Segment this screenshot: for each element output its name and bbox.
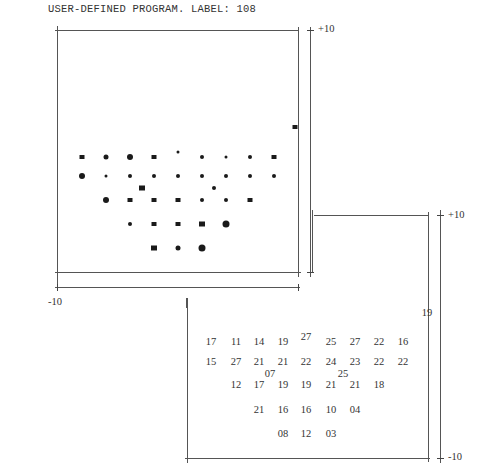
threshold-value: 22 <box>374 336 385 347</box>
top-border <box>55 30 299 31</box>
threshold-value: 11 <box>231 336 241 347</box>
greyscale-point <box>128 174 132 178</box>
bottom-border <box>185 458 430 459</box>
greyscale-point <box>177 151 180 154</box>
threshold-value: 27 <box>301 331 312 342</box>
right-axis-tick-top <box>307 30 314 31</box>
greyscale-point <box>152 198 157 202</box>
left-border-lower <box>187 298 188 463</box>
threshold-value: 19 <box>301 379 312 390</box>
threshold-value: 21 <box>254 404 265 415</box>
threshold-value: 17 <box>206 336 217 347</box>
bottom-axis-tick-right <box>298 284 299 291</box>
greyscale-point <box>224 198 228 202</box>
greyscale-point <box>200 198 204 202</box>
threshold-value: 19 <box>422 307 433 318</box>
threshold-value: 24 <box>326 356 337 367</box>
greyscale-point <box>248 174 252 178</box>
threshold-value: 21 <box>326 379 337 390</box>
threshold-value: 27 <box>231 356 242 367</box>
threshold-value: 16 <box>398 336 409 347</box>
top-border <box>314 215 429 216</box>
greyscale-point <box>225 156 228 159</box>
greyscale-point <box>139 186 145 191</box>
greyscale-point <box>200 174 204 178</box>
greyscale-point <box>104 155 109 160</box>
greyscale-point <box>248 155 252 159</box>
bottom-border <box>55 272 301 273</box>
threshold-value: 23 <box>350 356 361 367</box>
greyscale-point <box>105 175 108 178</box>
threshold-value: 19 <box>278 336 289 347</box>
right-axis-tick-top <box>437 215 444 216</box>
bottom-axis <box>55 287 300 288</box>
greyscale-point <box>128 222 132 226</box>
center-mark <box>186 298 187 308</box>
greyscale-point <box>127 154 133 160</box>
greyscale-point <box>223 221 230 228</box>
threshold-value: 21 <box>350 379 361 390</box>
threshold-value: 22 <box>374 356 385 367</box>
threshold-value: 16 <box>278 404 289 415</box>
left-border <box>57 26 58 288</box>
threshold-value: 21 <box>278 356 289 367</box>
greyscale-point <box>152 222 157 226</box>
program-label: USER-DEFINED PROGRAM. LABEL: 108 <box>48 3 256 15</box>
threshold-value: 21 <box>254 356 265 367</box>
left-border <box>312 210 313 272</box>
greyscale-point <box>199 245 206 252</box>
greyscale-point <box>176 198 181 202</box>
greyscale-point <box>199 222 205 227</box>
greyscale-point <box>176 246 181 251</box>
greyscale-point <box>103 197 109 203</box>
threshold-value: 16 <box>301 404 312 415</box>
greyscale-point <box>151 246 157 251</box>
threshold-value: 15 <box>206 356 217 367</box>
greyscale-point <box>212 186 216 190</box>
greyscale-point <box>248 198 253 202</box>
bottom-axis-tick-left <box>57 284 58 291</box>
threshold-value: 08 <box>278 428 289 439</box>
threshold-value: 27 <box>350 336 361 347</box>
right-axis <box>440 210 441 463</box>
threshold-value: 19 <box>278 379 289 390</box>
threshold-value: 18 <box>374 379 385 390</box>
greyscale-point <box>79 173 85 179</box>
greyscale-point <box>224 174 228 178</box>
right-border <box>428 212 429 462</box>
threshold-value: 25 <box>338 368 349 379</box>
threshold-value: 17 <box>254 379 265 390</box>
threshold-value: 10 <box>326 404 337 415</box>
greyscale-point <box>80 155 85 159</box>
greyscale-point <box>293 125 298 129</box>
threshold-value: 14 <box>254 336 265 347</box>
right-axis <box>310 27 311 277</box>
bottom-plot-minus-label: -10 <box>448 451 462 462</box>
greyscale-point <box>176 174 180 178</box>
threshold-value: 25 <box>326 336 337 347</box>
threshold-value: 04 <box>350 404 361 415</box>
threshold-value: 12 <box>231 379 242 390</box>
greyscale-point <box>200 155 204 159</box>
right-axis-tick-bottom <box>437 458 444 459</box>
greyscale-point <box>152 155 157 159</box>
greyscale-point <box>128 198 133 202</box>
threshold-value: 22 <box>301 356 312 367</box>
right-border <box>298 27 299 277</box>
greyscale-point <box>152 174 156 178</box>
right-axis-tick-bottom <box>307 272 314 273</box>
greyscale-point <box>176 222 181 226</box>
threshold-value: 07 <box>265 368 276 379</box>
top-plot-plus-label: +10 <box>318 23 334 34</box>
threshold-value: 03 <box>326 428 337 439</box>
greyscale-point <box>272 155 277 159</box>
greyscale-point <box>272 174 276 178</box>
bottom-plot-plus-label: +10 <box>448 209 464 220</box>
top-plot-minus-label: -10 <box>48 296 62 307</box>
threshold-value: 22 <box>398 356 409 367</box>
threshold-value: 12 <box>301 428 312 439</box>
